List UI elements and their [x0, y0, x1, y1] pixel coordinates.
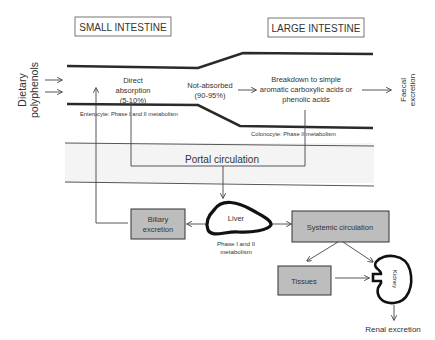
dietary-polyphenols-label: Dietary polyphenols — [16, 62, 40, 118]
enterocyte-label: Enterocyte: Phase I and II metabolism — [80, 111, 178, 117]
faecal-line2: excretion — [408, 74, 417, 106]
absorption-percent: (5-10%) — [120, 96, 147, 105]
kidney: Kidney — [373, 256, 411, 303]
liver-metabolism-line1: Phase I and II — [217, 240, 255, 247]
breakdown-line2: aromatic carboxylic acids or — [260, 85, 353, 94]
biliary-line1: Biliary — [148, 215, 169, 224]
dietary-label-line2: polyphenols — [28, 62, 40, 118]
liver-metabolism-line2: metabolism — [220, 248, 252, 255]
polyphenol-metabolism-diagram: SMALL INTESTINE LARGE INTESTINE Dietary … — [0, 0, 435, 340]
biliary-excretion-box: Biliary excretion — [131, 209, 185, 239]
tissues-label: Tissues — [291, 277, 317, 286]
systemic-circulation-box: Systemic circulation — [292, 211, 389, 242]
tissues-box: Tissues — [278, 266, 331, 295]
large-intestine-label: LARGE INTESTINE — [272, 23, 361, 34]
kidney-label: Kidney — [392, 270, 398, 288]
breakdown-line1: Breakdown to simple — [271, 75, 341, 84]
portal-circulation-label: Portal circulation — [185, 154, 259, 165]
small-intestine-label: SMALL INTESTINE — [79, 22, 167, 33]
systemic-label: Systemic circulation — [307, 223, 373, 232]
absorption-line1: Direct — [123, 76, 144, 85]
dietary-label-line1: Dietary — [16, 73, 28, 107]
intestine-upper-wall — [67, 53, 373, 68]
liver: Liver Phase I and II metabolism — [207, 202, 271, 255]
not-absorbed-percent: (90-95%) — [195, 91, 226, 100]
biliary-line2: excretion — [143, 225, 173, 234]
small-intestine-header: SMALL INTESTINE — [75, 17, 171, 36]
not-absorbed-line1: Not-absorbed — [187, 81, 232, 90]
breakdown-line3: phenolic acids — [282, 95, 330, 104]
renal-excretion-label: Renal excretion — [365, 325, 421, 334]
systemic-to-tissues-arrow — [307, 242, 338, 261]
liver-label: Liver — [228, 214, 245, 223]
colonocyte-label: Colonocyte: Phase II metabolism — [251, 131, 336, 137]
systemic-to-kidney-arrow — [343, 242, 373, 262]
large-intestine-header: LARGE INTESTINE — [268, 18, 364, 37]
faecal-line1: Faecal — [399, 78, 408, 102]
faecal-excretion-label: Faecal excretion — [399, 74, 417, 106]
absorption-line2: absorption — [115, 86, 150, 95]
